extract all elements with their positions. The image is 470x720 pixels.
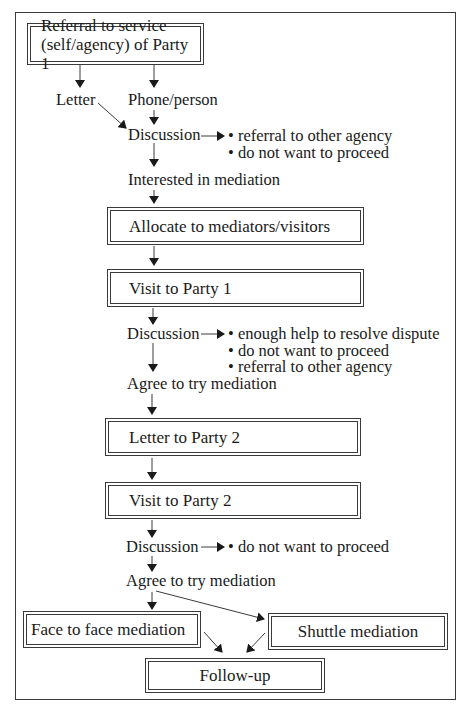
agree-2-label: Agree to try mediation [126,572,276,590]
outcome-item: do not want to proceed [228,539,389,556]
shuttle-box: Shuttle mediation [268,613,448,650]
visit-party1-label: Visit to Party 1 [129,279,231,298]
face-to-face-box: Face to face mediation [23,611,201,648]
discussion-3-outcomes: do not want to proceed [228,539,389,556]
start-referral-box: Referral to service (self/agency) of Par… [27,23,204,65]
visit-party2-box: Visit to Party 2 [105,482,361,519]
discussion-1-outcomes: referral to other agency do not want to … [228,128,392,161]
letter-channel-label: Letter [56,91,95,109]
outcome-item: do not want to proceed [228,145,392,162]
follow-up-label: Follow-up [200,666,271,685]
allocate-label: Allocate to mediators/visitors [129,217,330,236]
allocate-box: Allocate to mediators/visitors [107,207,364,245]
visit-party2-label: Visit to Party 2 [129,491,231,510]
discussion-2-outcomes: enough help to resolve dispute do not wa… [228,326,440,376]
interested-label: Interested in mediation [128,171,280,189]
letter-party2-box: Letter to Party 2 [105,418,361,456]
discussion-3-label: Discussion [126,538,198,556]
start-line-2: (self/agency) of Party 1 [41,35,200,73]
start-line-1: Referral to service [41,16,167,35]
visit-party1-box: Visit to Party 1 [107,269,364,307]
discussion-1-label: Discussion [128,126,200,144]
face-to-face-label: Face to face mediation [31,620,185,639]
agree-1-label: Agree to try mediation [127,375,277,393]
follow-up-box: Follow-up [145,658,325,693]
discussion-2-label: Discussion [127,325,199,343]
shuttle-label: Shuttle mediation [298,622,418,641]
phone-channel-label: Phone/person [128,91,218,109]
letter-party2-label: Letter to Party 2 [129,428,240,447]
